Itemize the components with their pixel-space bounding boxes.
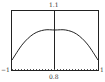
y-top-label: 1.1 (49, 2, 59, 8)
plot-canvas (0, 0, 105, 82)
y-bottom-label: 0.8 (49, 74, 59, 80)
x-right-label: 1 (100, 67, 104, 73)
x-left-label: −1 (1, 67, 10, 73)
